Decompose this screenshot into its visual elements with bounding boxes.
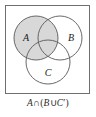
circle-a-label: A: [22, 32, 30, 43]
venn-diagram-graphic: A B C: [0, 0, 96, 96]
venn-diagram-figure: A B C A∩(B∪C′): [0, 0, 96, 117]
circle-b-label: B: [68, 32, 74, 43]
figure-caption: A∩(B∪C′): [0, 97, 96, 108]
circle-c-label: C: [45, 67, 52, 78]
caption-close-paren: ): [66, 98, 69, 108]
caption-union-operator: ∪: [50, 98, 57, 108]
